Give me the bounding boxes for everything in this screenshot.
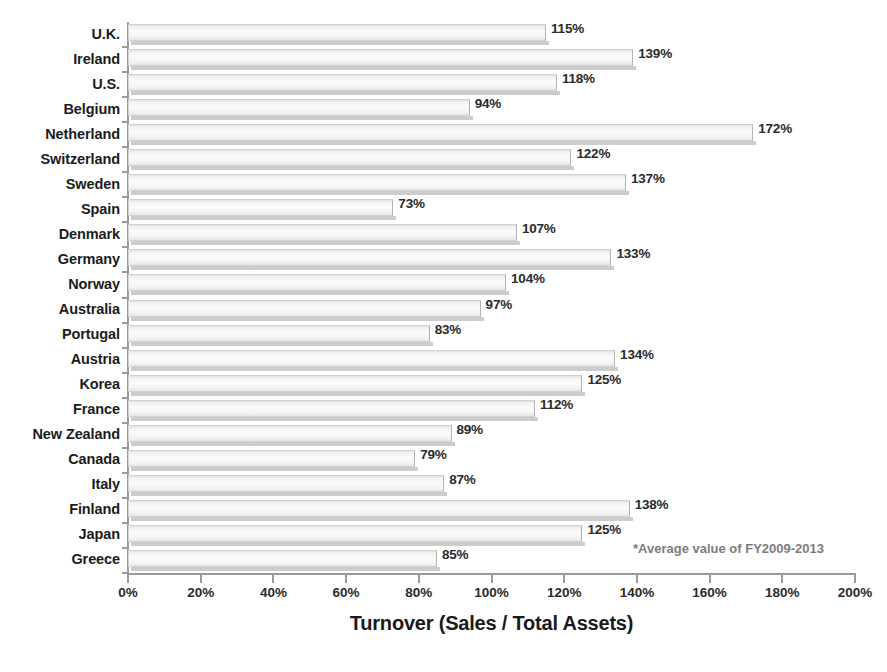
bar-row: 172% — [128, 122, 855, 147]
bar-shadow — [131, 266, 614, 270]
bar — [128, 525, 582, 544]
bar-fill — [128, 525, 582, 542]
y-axis-tick — [122, 146, 128, 148]
bar-shadow — [131, 492, 447, 496]
category-label: Germany — [0, 251, 120, 267]
bar — [128, 124, 753, 143]
category-label: Greece — [0, 551, 120, 567]
bar-fill — [128, 475, 444, 492]
bar — [128, 325, 430, 344]
x-axis-tick — [200, 575, 202, 583]
bar-shadow — [131, 116, 473, 120]
bar — [128, 425, 452, 444]
category-label: Finland — [0, 501, 120, 517]
x-axis-ticks — [128, 575, 855, 585]
bar-value-label: 139% — [638, 46, 672, 61]
bar-shadow — [131, 467, 418, 471]
bar-fill — [128, 500, 630, 517]
category-label: New Zealand — [0, 426, 120, 442]
bar-value-label: 122% — [576, 146, 610, 161]
x-axis-tick — [709, 575, 711, 583]
y-axis-tick — [122, 246, 128, 248]
bar-fill — [128, 400, 535, 417]
category-label: Switzerland — [0, 151, 120, 167]
bar-fill — [128, 174, 626, 191]
bar-value-label: 83% — [435, 322, 461, 337]
x-axis-tick-label: 0% — [118, 585, 138, 600]
bar — [128, 274, 506, 293]
bar-row: 97% — [128, 298, 855, 323]
bar-shadow — [131, 417, 538, 421]
category-label: Canada — [0, 451, 120, 467]
bar-row: 112% — [128, 398, 855, 423]
bar-fill — [128, 149, 571, 166]
bar-row: 115% — [128, 22, 855, 47]
y-axis-tick — [122, 447, 128, 449]
x-axis-tick-label: 140% — [620, 585, 655, 600]
y-axis-tick — [122, 522, 128, 524]
bar-shadow — [131, 41, 549, 45]
category-label: Denmark — [0, 226, 120, 242]
bar-value-label: 172% — [758, 121, 792, 136]
x-axis-tick — [345, 575, 347, 583]
bar-row: 137% — [128, 172, 855, 197]
bar-shadow — [131, 166, 574, 170]
y-axis-tick — [122, 322, 128, 324]
bar-row: 83% — [128, 323, 855, 348]
bar-value-label: 104% — [511, 271, 545, 286]
bar-shadow — [131, 141, 756, 145]
x-axis-tick-label: 120% — [547, 585, 582, 600]
bar — [128, 350, 615, 369]
bar-row: 107% — [128, 222, 855, 247]
bar-value-label: 79% — [420, 447, 446, 462]
bar-shadow — [131, 367, 618, 371]
bar — [128, 375, 582, 394]
bar-fill — [128, 249, 611, 266]
bar-row: 134% — [128, 348, 855, 373]
bar-shadow — [131, 517, 633, 521]
y-axis-tick — [122, 71, 128, 73]
bar — [128, 500, 630, 519]
x-axis-tick-label: 100% — [474, 585, 509, 600]
category-label: Spain — [0, 201, 120, 217]
bar-row: 89% — [128, 423, 855, 448]
bar-fill — [128, 99, 470, 116]
category-label: U.S. — [0, 76, 120, 92]
bar-shadow — [131, 66, 636, 70]
y-axis-tick — [122, 572, 128, 574]
bar-rows: 115%139%118%94%172%122%137%73%107%133%10… — [128, 22, 855, 573]
bar — [128, 224, 517, 243]
y-axis-tick — [122, 171, 128, 173]
y-axis-tick — [122, 547, 128, 549]
bar-fill — [128, 375, 582, 392]
y-axis-tick — [122, 196, 128, 198]
bar-value-label: 73% — [398, 196, 424, 211]
y-axis-tick — [122, 271, 128, 273]
x-axis-tick — [127, 575, 129, 583]
bar-row: 139% — [128, 47, 855, 72]
bar-fill — [128, 124, 753, 141]
bar-value-label: 115% — [551, 21, 584, 36]
category-label: Belgium — [0, 101, 120, 117]
bar — [128, 300, 481, 319]
y-axis-tick — [122, 96, 128, 98]
bar-fill — [128, 325, 430, 342]
bar — [128, 99, 470, 118]
bar — [128, 550, 437, 569]
x-axis-tick — [563, 575, 565, 583]
y-axis-tick — [122, 46, 128, 48]
bar-value-label: 112% — [540, 397, 573, 412]
bar-value-label: 125% — [587, 372, 621, 387]
y-axis-tick — [122, 347, 128, 349]
bar-shadow — [131, 291, 509, 295]
bar-shadow — [131, 216, 396, 220]
bar-shadow — [131, 442, 455, 446]
category-label: Sweden — [0, 176, 120, 192]
y-axis-tick — [122, 121, 128, 123]
bar-shadow — [131, 241, 520, 245]
x-axis-tick-label: 60% — [333, 585, 360, 600]
bar-shadow — [131, 542, 585, 546]
bar-row: 125% — [128, 373, 855, 398]
bar-value-label: 85% — [442, 547, 468, 562]
bar-value-label: 137% — [631, 171, 665, 186]
